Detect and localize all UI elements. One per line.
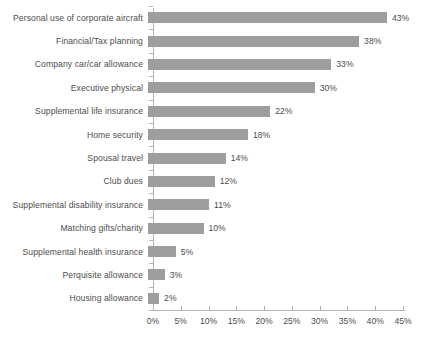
x-axis-tick-label: 30%: [311, 316, 328, 326]
bar-zone: 14%: [148, 146, 433, 169]
bar: [148, 36, 359, 47]
x-axis-tick: [264, 306, 265, 310]
bar-zone: 11%: [148, 193, 433, 216]
category-label: Financial/Tax planning: [0, 36, 148, 46]
category-label: Matching gifts/charity: [0, 223, 148, 233]
bar: [148, 59, 331, 70]
bar-value-label: 33%: [336, 59, 353, 69]
bar-row: Perquisite allowance3%: [0, 263, 433, 286]
bar: [148, 176, 215, 187]
bar-zone: 30%: [148, 76, 433, 99]
category-label: Supplemental disability insurance: [0, 200, 148, 210]
category-label: Supplemental health insurance: [0, 247, 148, 257]
bar: [148, 199, 209, 210]
bar-row: Financial/Tax planning38%: [0, 29, 433, 52]
x-axis-line: [153, 310, 405, 311]
y-axis-tick: [149, 29, 153, 30]
y-axis-tick: [149, 53, 153, 54]
bar-row: Matching gifts/charity10%: [0, 217, 433, 240]
x-axis-tick: [153, 306, 154, 310]
category-label: Company car/car allowance: [0, 59, 148, 69]
bar-value-label: 12%: [220, 176, 237, 186]
bar-zone: 33%: [148, 53, 433, 76]
bar-row: Spousal travel14%: [0, 146, 433, 169]
x-axis-tick-label: 15%: [228, 316, 245, 326]
x-axis-tick: [320, 306, 321, 310]
bar-row: Supplemental health insurance5%: [0, 240, 433, 263]
chart-rows: Personal use of corporate aircraft43%Fin…: [0, 6, 433, 310]
bar: [148, 129, 248, 140]
category-label: Home security: [0, 130, 148, 140]
bar: [148, 153, 226, 164]
bar-zone: 18%: [148, 123, 433, 146]
y-axis-tick: [149, 240, 153, 241]
bar-zone: 12%: [148, 170, 433, 193]
bar-row: Supplemental life insurance22%: [0, 100, 433, 123]
x-axis-tick: [347, 306, 348, 310]
bar-value-label: 22%: [275, 106, 292, 116]
bar-value-label: 18%: [253, 130, 270, 140]
bar-value-label: 5%: [181, 247, 193, 257]
x-axis-tick-label: 35%: [339, 316, 356, 326]
bar-zone: 2%: [148, 287, 433, 310]
bar: [148, 293, 159, 304]
bar-zone: 38%: [148, 29, 433, 52]
bar-row: Housing allowance2%: [0, 287, 433, 310]
x-axis-tick-label: 0%: [147, 316, 159, 326]
bar-row: Home security18%: [0, 123, 433, 146]
x-axis-tick-label: 5%: [175, 316, 187, 326]
bar-zone: 5%: [148, 240, 433, 263]
x-axis-tick-label: 25%: [283, 316, 300, 326]
category-label: Supplemental life insurance: [0, 106, 148, 116]
category-label: Spousal travel: [0, 153, 148, 163]
bar-zone: 3%: [148, 263, 433, 286]
x-axis-tick-label: 40%: [367, 316, 384, 326]
y-axis-tick: [149, 217, 153, 218]
bar-chart: Personal use of corporate aircraft43%Fin…: [0, 0, 433, 342]
category-label: Personal use of corporate aircraft: [0, 13, 148, 23]
category-label: Executive physical: [0, 83, 148, 93]
bar: [148, 82, 315, 93]
bar-zone: 43%: [148, 6, 433, 29]
bar: [148, 12, 387, 23]
y-axis-tick: [149, 287, 153, 288]
bar-row: Executive physical30%: [0, 76, 433, 99]
bar-zone: 22%: [148, 100, 433, 123]
category-label: Housing allowance: [0, 293, 148, 303]
y-axis-tick: [149, 123, 153, 124]
x-axis-tick: [209, 306, 210, 310]
bar-row: Personal use of corporate aircraft43%: [0, 6, 433, 29]
x-axis-tick: [181, 306, 182, 310]
y-axis-tick: [149, 146, 153, 147]
bar-value-label: 43%: [392, 13, 409, 23]
bar: [148, 269, 165, 280]
bar: [148, 106, 270, 117]
y-axis-tick: [149, 263, 153, 264]
x-axis-tick-label: 10%: [200, 316, 217, 326]
bar: [148, 246, 176, 257]
x-axis-tick-label: 20%: [256, 316, 273, 326]
y-axis-tick: [149, 193, 153, 194]
x-axis-tick: [236, 306, 237, 310]
category-label: Club dues: [0, 176, 148, 186]
x-axis-tick: [375, 306, 376, 310]
bar-value-label: 10%: [209, 223, 226, 233]
bar-value-label: 2%: [164, 293, 176, 303]
y-axis-tick: [149, 100, 153, 101]
bar-value-label: 11%: [214, 200, 231, 210]
bar-row: Club dues12%: [0, 170, 433, 193]
y-axis-tick: [149, 76, 153, 77]
x-axis-tick: [403, 306, 404, 310]
bar-value-label: 3%: [170, 270, 182, 280]
bar-zone: 10%: [148, 217, 433, 240]
x-axis-tick: [292, 306, 293, 310]
bar-value-label: 30%: [320, 83, 337, 93]
x-axis-tick-label: 45%: [394, 316, 411, 326]
bar-row: Supplemental disability insurance11%: [0, 193, 433, 216]
bar-row: Company car/car allowance33%: [0, 53, 433, 76]
category-label: Perquisite allowance: [0, 270, 148, 280]
y-axis-tick: [149, 170, 153, 171]
y-axis-tick: [149, 310, 153, 311]
bar-value-label: 14%: [231, 153, 248, 163]
y-axis-tick: [149, 6, 153, 7]
